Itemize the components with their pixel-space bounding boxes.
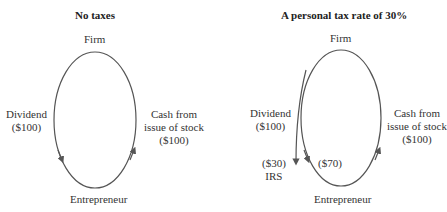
left-cash-label: Cash from issue of stock ($100) — [144, 108, 204, 147]
flow-diagram-graphics — [0, 0, 447, 212]
right-panel-title: A personal tax rate of 30% — [281, 9, 407, 21]
irs-tax-label: ($30) IRS — [262, 157, 286, 183]
right-cash-label: Cash from issue of stock ($100) — [387, 107, 447, 146]
left-dividend-label: Dividend ($100) — [6, 108, 47, 134]
net-dividend-label: ($70) — [318, 157, 342, 170]
left-entrepreneur-node: Entrepreneur — [70, 193, 127, 206]
left-cycle — [54, 52, 136, 188]
dividend-arrow-icon — [58, 150, 62, 160]
right-firm-node: Firm — [330, 32, 351, 45]
left-firm-node: Firm — [84, 33, 105, 46]
left-panel-title: No taxes — [75, 9, 115, 21]
right-dividend-label: Dividend ($100) — [250, 107, 291, 133]
right-entrepreneur-node: Entrepreneur — [314, 193, 371, 206]
